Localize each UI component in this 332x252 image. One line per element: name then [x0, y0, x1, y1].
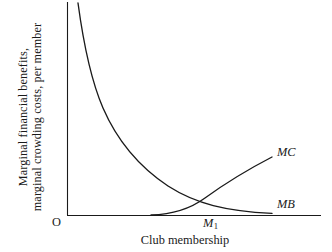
y-axis-label: Marginal financial benefits, marginal cr… [13, 9, 47, 225]
y-axis-label-line-2: marginal crowding costs, per member [30, 23, 44, 212]
m1-annotation-subscript: 1 [214, 221, 218, 231]
m1-annotation-letter: M [203, 216, 213, 230]
chart-figure: Marginal financial benefits, marginal cr… [0, 0, 332, 252]
mb-curve [78, 3, 272, 213]
mb-curve-label: MB [277, 197, 295, 212]
x-axis-label: Club membership [0, 233, 332, 248]
plot-area [0, 0, 332, 252]
m1-annotation: M1 [203, 216, 218, 231]
mc-curve-label: MC [277, 145, 296, 160]
origin-label: O [52, 215, 61, 230]
x-axis-label-text: Club membership [141, 233, 229, 248]
y-axis-label-line-1: Marginal financial benefits, [16, 48, 30, 186]
